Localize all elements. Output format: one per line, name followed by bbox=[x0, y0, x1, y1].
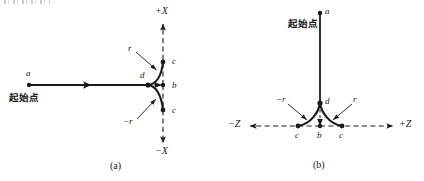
panel-a-node-d-label: d bbox=[140, 71, 145, 80]
figure-vector-graphics bbox=[0, 0, 424, 181]
panel-a-node-a-label: a bbox=[26, 69, 31, 78]
panel-b-graphics bbox=[250, 11, 393, 129]
panel-a-axis-positive-label: +X bbox=[155, 6, 168, 16]
panel-a-curve-upper bbox=[148, 62, 163, 85]
panel-a-node-c-upper-label: c bbox=[172, 57, 176, 66]
panel-a-negative-radius-label: −r bbox=[123, 117, 133, 126]
panel-a-caption: (a) bbox=[110, 161, 121, 171]
panel-a-node-c-lower bbox=[161, 108, 166, 113]
panel-b-leader-r bbox=[333, 104, 352, 120]
panel-b-node-a-label: a bbox=[325, 7, 330, 16]
panel-b-node-b bbox=[318, 124, 322, 128]
panel-b-node-c-left-label: c bbox=[295, 131, 299, 140]
panel-b-caption: (b) bbox=[313, 160, 325, 170]
panel-b-curve-right bbox=[320, 103, 342, 126]
panel-b-node-c-left bbox=[296, 124, 301, 129]
panel-b-axis-positive-label: +Z bbox=[399, 119, 411, 129]
panel-a-curve-lower bbox=[148, 85, 163, 110]
panel-a-leader-neg-r bbox=[137, 99, 156, 119]
panel-a-node-b-label: b bbox=[172, 81, 177, 90]
panel-a-node-c-lower-label: c bbox=[172, 106, 176, 115]
panel-b-radius-label: r bbox=[353, 95, 357, 104]
panel-b-axis-negative-label: −Z bbox=[228, 119, 240, 129]
panel-a-leader-r bbox=[136, 52, 157, 70]
panel-b-start-point-label: 起始点 bbox=[288, 19, 318, 29]
panel-a-node-d bbox=[145, 82, 150, 87]
panel-a-node-a bbox=[27, 83, 31, 87]
panel-b-node-d-label: d bbox=[325, 97, 330, 106]
panel-a-node-b bbox=[161, 83, 165, 87]
panel-a-start-point-label: 起始点 bbox=[9, 93, 39, 103]
panel-a-node-c-upper bbox=[161, 60, 166, 65]
panel-a-axis-negative-label: −X bbox=[155, 146, 168, 156]
figure-container: +X −X a 起始点 d b c c r −r (a) a 起始点 −Z +Z… bbox=[0, 0, 424, 181]
panel-b-leader-neg-r bbox=[288, 104, 307, 120]
panel-a-graphics bbox=[27, 24, 166, 143]
panel-b-curve-left bbox=[298, 103, 320, 126]
panel-b-node-a bbox=[318, 11, 322, 15]
panel-b-negative-radius-label: −r bbox=[276, 95, 286, 104]
panel-a-radius-label: r bbox=[128, 44, 132, 53]
panel-b-node-d bbox=[317, 100, 322, 105]
panel-b-node-c-right bbox=[340, 124, 345, 129]
panel-b-node-c-right-label: c bbox=[339, 131, 343, 140]
panel-b-node-b-label: b bbox=[317, 131, 322, 140]
